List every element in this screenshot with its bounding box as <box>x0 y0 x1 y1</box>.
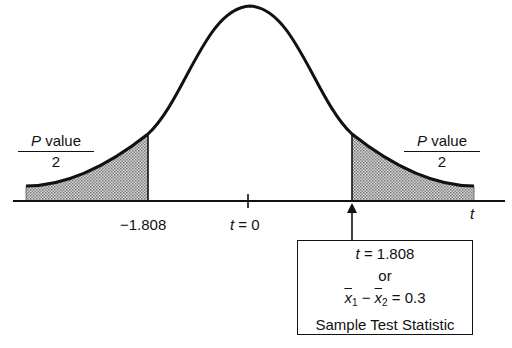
callout-line-difference: x1 − x2 = 0.3 <box>298 287 472 314</box>
axis-label-t: t <box>470 205 474 222</box>
right-tail-label: P value 2 <box>404 132 480 171</box>
p-variable: P <box>417 132 427 149</box>
denominator: 2 <box>18 152 94 171</box>
left-tail-label: P value 2 <box>18 132 94 171</box>
center-tick-label: t = 0 <box>230 216 260 233</box>
callout-line-t: t = 1.808 <box>298 243 472 265</box>
p-variable: P <box>31 132 41 149</box>
left-critical-value-label: −1.808 <box>120 216 166 233</box>
denominator: 2 <box>404 152 480 171</box>
sample-test-statistic-callout: t = 1.808 or x1 − x2 = 0.3 Sample Test S… <box>297 240 473 335</box>
callout-line-or: or <box>298 265 472 287</box>
arrow-up-icon <box>347 203 357 213</box>
callout-line-caption: Sample Test Statistic <box>298 314 472 336</box>
